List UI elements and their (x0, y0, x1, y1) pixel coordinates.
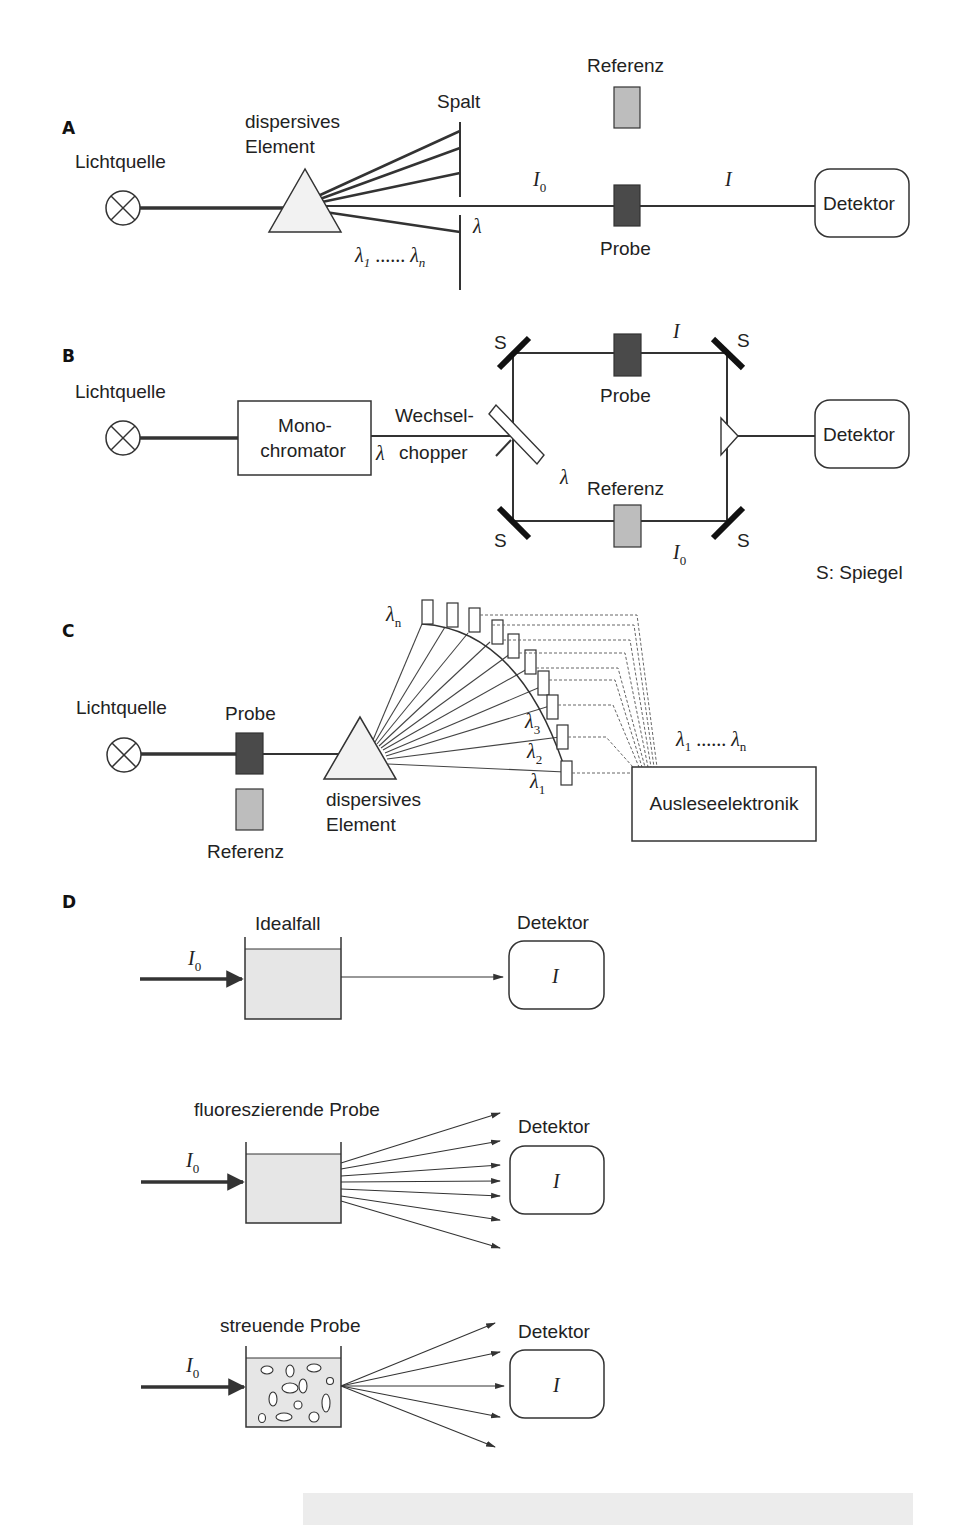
mirror-legend: S: Spiegel (816, 562, 903, 583)
cuvette (246, 1154, 341, 1223)
sample-label: Probe (225, 703, 276, 724)
case-scattering: streuende Probe I0 (141, 1315, 604, 1447)
detector-label: Detektor (517, 912, 589, 933)
caption-band (303, 1493, 913, 1525)
section-c: C Lichtquelle Probe Referenz disp (62, 600, 816, 862)
mirror-label: S (494, 332, 507, 353)
reference-label: Referenz (587, 478, 664, 499)
dispersed-beams (373, 624, 565, 772)
dispersed-beams (318, 131, 460, 232)
light-source-icon (107, 738, 141, 772)
light-source-icon (106, 421, 140, 455)
i-label: I (552, 1170, 561, 1192)
scattered-rays (341, 1323, 504, 1447)
light-source-icon (106, 191, 140, 225)
sample-cuvette (614, 185, 640, 226)
detector-label: Detektor (823, 193, 895, 214)
i0-label: I0 (532, 168, 546, 195)
lambda-n-label: λn (385, 603, 402, 630)
chopper-label-1: Wechsel- (395, 405, 474, 426)
detector-label: Detektor (518, 1116, 590, 1137)
case-title: streuende Probe (220, 1315, 361, 1336)
reference-label: Referenz (587, 55, 664, 76)
section-d: D Idealfall I0 Detektor I fluoreszierend… (62, 892, 604, 1447)
i-label: I (672, 320, 681, 342)
lambda-3-label: λ3 (524, 710, 540, 737)
i-label: I (552, 1374, 561, 1396)
mirror-label: S (737, 330, 750, 351)
reference-cuvette (614, 505, 641, 547)
emitted-rays (341, 1113, 500, 1248)
section-label-c: C (62, 621, 74, 641)
section-b: B Lichtquelle Mono- chromator λ Wechsel-… (62, 320, 909, 583)
case-fluorescent: fluoreszierende Probe I0 Detektor I (141, 1099, 604, 1248)
i-label: I (551, 965, 560, 987)
section-label-d: D (62, 892, 76, 912)
mirror-label: S (737, 530, 750, 551)
section-label-a: A (62, 118, 76, 138)
detector-label: Detektor (518, 1321, 590, 1342)
i0-label: I0 (187, 947, 201, 974)
case-title: fluoreszierende Probe (194, 1099, 380, 1120)
dispersive-label-1: dispersives (326, 789, 421, 810)
lambda-range: λ1 ...... λn (675, 728, 747, 754)
lambda-label: λ (375, 442, 385, 464)
sample-label: Probe (600, 238, 651, 259)
dispersive-label-1: dispersives (245, 111, 340, 132)
spectrometer-diagram: A Lichtquelle dispersives Element Spalt … (0, 0, 955, 1525)
detector-label: Detektor (823, 424, 895, 445)
monochromator-label-2: chromator (260, 440, 346, 461)
cuvette (245, 949, 341, 1019)
reference-cuvette (236, 789, 263, 830)
section-label-b: B (62, 346, 75, 366)
sample-cuvette (614, 334, 641, 376)
dispersive-label-2: Element (245, 136, 315, 157)
i0-label: I0 (185, 1354, 199, 1381)
slit-label: Spalt (437, 91, 481, 112)
mirror-label: S (494, 530, 507, 551)
light-source-label: Lichtquelle (75, 381, 166, 402)
lambda-1-label: λ1 (529, 770, 545, 797)
lambda-range: λ1 ...... λn (354, 244, 425, 270)
sample-cuvette (236, 733, 263, 774)
i0-label: I0 (185, 1149, 199, 1176)
lambda-label: λ (472, 215, 482, 237)
i-label: I (724, 168, 733, 190)
case-ideal: Idealfall I0 Detektor I (140, 912, 604, 1019)
reference-cuvette (614, 87, 640, 128)
light-source-label: Lichtquelle (76, 697, 167, 718)
section-a: A Lichtquelle dispersives Element Spalt … (62, 55, 909, 290)
light-source-label: Lichtquelle (75, 151, 166, 172)
beam-combiner-icon (721, 418, 738, 455)
dispersive-label-2: Element (326, 814, 396, 835)
lambda-inner-label: λ (559, 466, 569, 488)
case-title: Idealfall (255, 913, 321, 934)
sample-label: Probe (600, 385, 651, 406)
i0-label: I0 (672, 541, 686, 568)
monochromator-box (238, 401, 371, 475)
lambda-2-label: λ2 (526, 740, 542, 767)
readout-label: Ausleseelektronik (650, 793, 799, 814)
monochromator-label-1: Mono- (278, 415, 332, 436)
chopper-label-2: chopper (399, 442, 468, 463)
reference-label: Referenz (207, 841, 284, 862)
